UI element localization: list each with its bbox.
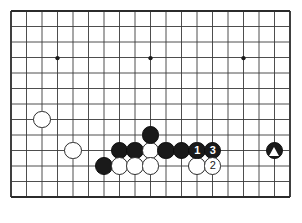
move-number-label: 2 [210,160,216,171]
go-stone-white[interactable] [142,157,160,175]
go-stone-white[interactable] [64,142,82,160]
go-diagram: 132 [0,0,302,223]
go-stone-black[interactable] [142,126,160,144]
move-number-label: 3 [210,144,216,155]
go-stone-white[interactable]: 2 [204,157,222,175]
star-point [55,56,59,60]
go-stone-white[interactable] [33,111,51,129]
triangle-marker-icon [269,147,279,156]
star-point [241,56,245,60]
star-point [148,56,152,60]
move-number-label: 1 [194,144,200,155]
star-points [55,56,245,60]
